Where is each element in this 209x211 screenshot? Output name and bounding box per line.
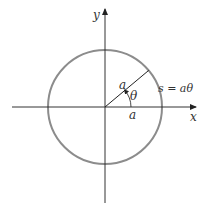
- y-axis-label: y: [92, 8, 100, 22]
- theta-label: θ: [130, 89, 138, 103]
- arc-length-label: s = aθ: [158, 82, 193, 95]
- radius-line: [105, 70, 149, 107]
- x-axis-label: x: [190, 110, 197, 124]
- x-radius-label: a: [129, 108, 136, 122]
- radius-label: a: [119, 78, 126, 92]
- arc-length-diagram: y x a θ a s = aθ: [0, 0, 209, 211]
- diagram-svg: y x a θ a s = aθ: [0, 0, 209, 211]
